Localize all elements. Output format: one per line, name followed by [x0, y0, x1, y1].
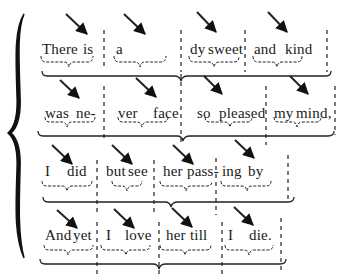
syllable: was — [45, 106, 69, 121]
syllable-stressed: sweet — [208, 42, 243, 57]
syllable: And — [45, 228, 71, 243]
syllable-stressed: love — [125, 228, 152, 243]
syllable-stressed: yet — [73, 228, 92, 243]
syllable: ver — [118, 106, 138, 121]
syllable: and — [254, 42, 276, 57]
syllable-stressed: did — [67, 164, 87, 179]
syllable-stressed: pass- — [187, 164, 219, 179]
syllable-stressed: die. — [249, 228, 272, 243]
syllable: so — [197, 106, 211, 121]
syllable: my — [274, 106, 294, 121]
syllable-stressed: till — [190, 228, 207, 243]
syllable: a — [116, 42, 123, 57]
syllable: I — [106, 228, 111, 243]
scansion-diagram: There is a dy sweet and kind was ne- ver… — [0, 0, 342, 280]
syllable-stressed: by — [248, 164, 263, 179]
stanza-brace-icon — [8, 14, 24, 258]
syllable: but — [106, 164, 126, 179]
syllable-stressed: is — [83, 42, 93, 57]
syllable-stressed: ne- — [76, 106, 96, 121]
syllable: I — [228, 228, 233, 243]
syllable: There — [42, 42, 78, 57]
syllable: her — [163, 164, 183, 179]
syllable: I — [45, 164, 50, 179]
syllable: her — [166, 228, 186, 243]
syllable-stressed: face — [153, 106, 179, 121]
syllable-stressed: mind, — [296, 106, 332, 121]
syllable-stressed: pleased — [219, 106, 265, 121]
syllable-stressed: see — [128, 164, 148, 179]
syllable: ing — [222, 164, 242, 179]
syllable: dy — [190, 42, 205, 57]
syllable-stressed: kind — [285, 42, 312, 57]
